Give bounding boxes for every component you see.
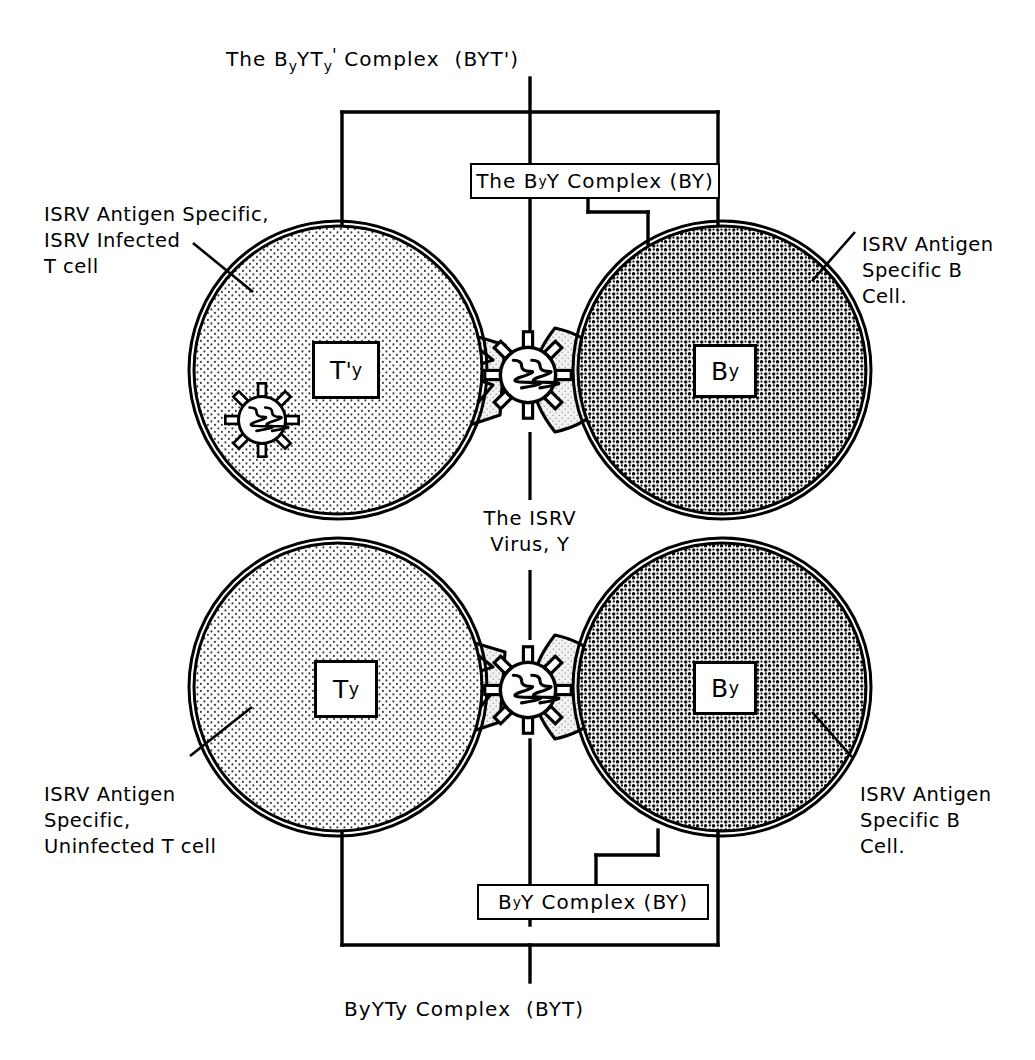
annotation-bottom-right: ISRV AntigenSpecific BCell. xyxy=(860,782,992,860)
center-virus-label: The ISRVVirus, Y xyxy=(430,506,630,558)
title-segment: The B xyxy=(226,47,289,71)
annotation-line: ISRV Infected xyxy=(44,229,180,252)
annotation-line: ISRV Antigen xyxy=(860,783,992,806)
tag-base: T xyxy=(330,356,346,385)
title-subscript: y xyxy=(324,58,332,74)
annotation-top-left: ISRV Antigen Specific,ISRV InfectedT cel… xyxy=(44,202,269,280)
annotation-top-right: ISRV AntigenSpecific BCell. xyxy=(862,232,994,310)
tag-base: B xyxy=(711,674,729,703)
box-segment: Y Complex (BY) xyxy=(521,890,688,914)
tag-subscript: y xyxy=(349,679,359,699)
annotation-line: Specific B xyxy=(860,809,960,832)
tag-subscript: y xyxy=(729,678,739,698)
title-segment: Complex (BYT') xyxy=(337,47,520,71)
tag-base: B xyxy=(711,357,729,386)
cell-tag-t-prime-y: T'y xyxy=(312,341,380,399)
annotation-line: Specific, xyxy=(44,809,131,832)
diagram-canvas: The ByYTy' Complex (BYT') The ByY Comple… xyxy=(0,0,1035,1060)
center-label-line: The ISRV xyxy=(484,507,577,530)
annotation-line: ISRV Antigen xyxy=(44,783,176,806)
cell-tag-t-y: Ty xyxy=(314,660,378,718)
box-subscript: y xyxy=(538,173,546,189)
by-complex-box-top[interactable]: The ByY Complex (BY) xyxy=(470,163,720,199)
tag-base: T xyxy=(333,675,349,704)
box-segment: Y Complex (BY) xyxy=(547,169,714,193)
title-subscript: y xyxy=(289,58,297,74)
virus-icon xyxy=(485,647,571,733)
annotation-line: ISRV Antigen Specific, xyxy=(44,203,269,226)
title-segment: YT xyxy=(297,47,324,71)
tag-subscript: y xyxy=(729,361,739,381)
box-segment: B xyxy=(498,890,513,914)
annotation-line: Specific B xyxy=(862,259,962,282)
annotation-line: ISRV Antigen xyxy=(862,233,994,256)
cell-tag-b-y-top: By xyxy=(693,344,757,398)
cell-tag-b-y-bottom: By xyxy=(693,661,757,715)
annotation-line: Cell. xyxy=(862,285,907,308)
page-title-byt-prime: The ByYTy' Complex (BYT') xyxy=(226,44,519,75)
annotation-line: T cell xyxy=(44,255,99,278)
annotation-line: Uninfected T cell xyxy=(44,835,216,858)
annotation-bottom-left: ISRV AntigenSpecific,Uninfected T cell xyxy=(44,782,216,860)
tag-subscript: y xyxy=(352,360,362,380)
box-subscript: y xyxy=(513,894,521,910)
box-segment: The B xyxy=(476,169,538,193)
intracellular-virus-icon xyxy=(225,383,298,456)
center-label-line: Virus, Y xyxy=(490,533,570,556)
title-segment: ByYTy Complex (BYT) xyxy=(344,997,584,1021)
by-complex-box-bottom[interactable]: By Y Complex (BY) xyxy=(477,884,709,920)
virus-icon xyxy=(485,332,571,418)
annotation-line: Cell. xyxy=(860,835,905,858)
page-title-byt: ByYTy Complex (BYT) xyxy=(344,996,584,1023)
